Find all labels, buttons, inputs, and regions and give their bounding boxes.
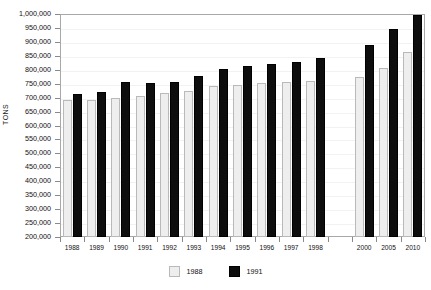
x-axis-tick-label: 1993 [186,244,201,251]
bar-1988-2005 [379,68,388,237]
y-axis-tick-label: 550,000 [25,135,51,143]
bar-group [111,14,130,237]
y-axis-tick-label: 650,000 [25,108,51,116]
bar-1988-1988 [63,100,72,237]
x-axis-tick-mark [133,237,134,242]
y-axis-tick-label: 350,000 [25,191,51,199]
legend-label: 1988 [187,267,203,276]
x-axis-tick-mark [328,237,329,242]
bar-group [209,14,228,237]
bar-1988-2010 [403,52,412,237]
bar-1991-1997 [292,62,301,237]
bar-group [306,14,325,237]
bar-group [87,14,106,237]
bar-1991-1993 [194,76,203,237]
y-axis-tick-label: 800,000 [25,66,51,74]
x-axis-tick-label: 1995 [235,244,250,251]
x-axis-tick-mark [182,237,183,242]
x-axis-tick-marks [60,237,425,243]
bar-1988-1991 [136,96,145,237]
x-axis-tick-label: 1998 [308,244,323,251]
bar-1988-1990 [111,98,120,237]
bar-1991-1996 [267,64,276,237]
x-axis-tick-label: 2000 [357,244,372,251]
x-axis-tick-label: 1997 [284,244,299,251]
x-axis-tick-label: 2010 [405,244,420,251]
legend-label: 1991 [247,267,263,276]
x-axis-tick-labels: 1988198919901991199219931994199519961997… [60,244,425,258]
legend-entry-1991: 1991 [229,266,263,277]
x-axis-tick-mark [206,237,207,242]
x-axis-tick-label: 1990 [113,244,128,251]
bar-group [355,14,374,237]
bar-1988-1993 [184,91,193,237]
bar-1991-1994 [219,69,228,237]
y-axis-tick-label: 250,000 [25,219,51,227]
bar-1988-1989 [87,100,96,237]
x-axis-tick-label: 1991 [138,244,153,251]
y-axis-tick-label: 200,000 [25,233,51,241]
bar-group [233,14,252,237]
bar-group [379,14,398,237]
y-axis-tick-label: 450,000 [25,163,51,171]
legend-entry-1988: 1988 [169,266,203,277]
bar-1988-1998 [306,81,315,237]
y-axis-tick-label: 700,000 [25,94,51,102]
legend-swatch-1991 [229,266,240,277]
bar-1991-2010 [413,15,422,237]
y-axis-tick-label: 900,000 [25,38,51,46]
x-axis-tick-mark [230,237,231,242]
x-axis-tick-mark [352,237,353,242]
y-axis-tick-label: 600,000 [25,122,51,130]
bar-1991-1990 [121,82,130,237]
x-axis-tick-label: 1988 [65,244,80,251]
chart-legend: 19881991 [0,266,431,277]
bar-1988-2000 [355,77,364,237]
bar-1991-2005 [389,29,398,237]
bar-group [403,14,422,237]
x-axis-tick-mark [425,237,426,242]
legend-swatch-1988 [169,266,180,277]
bar-1991-1988 [73,94,82,237]
x-axis-tick-mark [303,237,304,242]
x-axis-tick-mark [157,237,158,242]
y-axis-tick-label: 950,000 [25,24,51,32]
x-axis-tick-mark [255,237,256,242]
x-axis-tick-label: 1992 [162,244,177,251]
bar-group [63,14,82,237]
bar-1988-1997 [282,82,291,237]
x-axis-tick-mark [60,237,61,242]
y-axis-tick-label: 400,000 [25,177,51,185]
x-axis-tick-label: 1994 [211,244,226,251]
x-axis-tick-mark [376,237,377,242]
y-axis-tick-labels: 1,000,000950,000900,000850,000800,000750… [0,0,58,290]
x-axis-tick-mark [401,237,402,242]
x-axis-tick-mark [279,237,280,242]
y-axis-tick-label: 750,000 [25,80,51,88]
bar-1988-1992 [160,93,169,237]
bar-1988-1996 [257,83,266,237]
x-axis-tick-label: 1996 [259,244,274,251]
y-axis-tick-label: 300,000 [25,205,51,213]
x-axis-tick-mark [84,237,85,242]
bar-1991-1992 [170,82,179,237]
bars-layer [60,14,425,237]
y-axis-tick-label: 1,000,000 [19,10,51,18]
y-axis-tick-label: 500,000 [25,149,51,157]
x-axis-tick-label: 2005 [381,244,396,251]
bar-1988-1995 [233,85,242,237]
bar-1991-1998 [316,58,325,237]
bar-group [160,14,179,237]
bar-1991-1995 [243,66,252,237]
bar-group [136,14,155,237]
bar-group [330,14,349,237]
x-axis-tick-label: 1989 [89,244,104,251]
bar-group [257,14,276,237]
x-axis-tick-mark [109,237,110,242]
bar-1991-2000 [365,45,374,237]
y-axis-tick-label: 850,000 [25,52,51,60]
bar-group [184,14,203,237]
bar-1991-1989 [97,92,106,238]
bar-1991-1991 [146,83,155,237]
bar-group [282,14,301,237]
